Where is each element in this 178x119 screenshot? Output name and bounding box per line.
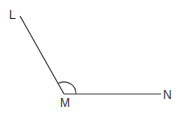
label-N: N xyxy=(163,88,172,102)
ray-ML xyxy=(20,16,64,94)
label-M: M xyxy=(60,96,70,110)
angle-diagram: L M N xyxy=(0,0,178,119)
label-L: L xyxy=(9,8,16,22)
angle-figure: L M N xyxy=(0,0,178,119)
